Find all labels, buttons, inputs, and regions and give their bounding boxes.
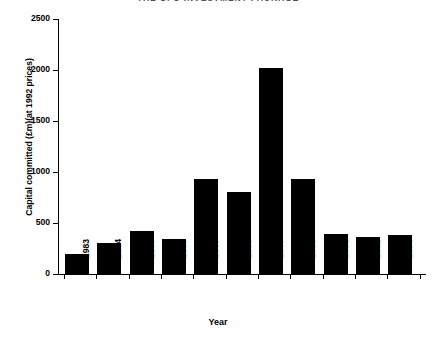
y-tick-label: 1000	[16, 167, 50, 176]
x-tick	[129, 274, 130, 279]
y-tick	[53, 274, 59, 275]
x-tick-label: 1986	[178, 239, 188, 279]
y-tick-label: 500	[16, 218, 50, 227]
y-tick-label: 0	[16, 269, 50, 278]
plot-area	[59, 19, 426, 274]
x-tick-label: 1991	[340, 239, 350, 279]
x-tick-label: 1993	[404, 239, 414, 279]
y-tick-label: 2500	[16, 14, 50, 23]
x-tick	[290, 274, 291, 279]
x-tick	[323, 274, 324, 279]
x-tick	[193, 274, 194, 279]
x-tick-label: 1984	[113, 239, 123, 279]
x-tick	[355, 274, 356, 279]
bar-chart: THE UFO INVESTMENT PACKAGE Capital commi…	[0, 0, 436, 337]
x-tick	[258, 274, 259, 279]
chart-title: THE UFO INVESTMENT PACKAGE	[0, 0, 436, 3]
y-tick-label: 2000	[16, 65, 50, 74]
x-tick	[161, 274, 162, 279]
x-tick	[96, 274, 97, 279]
y-tick-label: 1500	[16, 116, 50, 125]
x-tick	[226, 274, 227, 279]
x-tick	[420, 274, 421, 279]
x-tick-label: 1992	[372, 239, 382, 279]
x-tick-label: 1988	[243, 239, 253, 279]
x-tick-label: 1983	[81, 239, 91, 279]
x-tick	[64, 274, 65, 279]
x-tick-label: 1987	[210, 239, 220, 279]
x-tick	[387, 274, 388, 279]
x-tick-label: 1989	[275, 239, 285, 279]
x-tick-label: 1985	[146, 239, 156, 279]
x-axis-label: Year	[0, 317, 436, 327]
x-tick-label: 1990	[307, 239, 317, 279]
